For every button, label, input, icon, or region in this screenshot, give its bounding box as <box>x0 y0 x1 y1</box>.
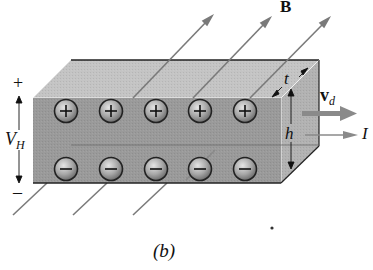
drift-velocity-symbol: v <box>320 85 329 105</box>
minus-terminal-label: – <box>13 182 22 203</box>
current-label: I <box>362 124 368 144</box>
hall-voltage-symbol: V <box>5 129 16 149</box>
figure-caption: (b) <box>153 240 175 262</box>
hall-voltage-label: VH <box>5 129 25 153</box>
thickness-label: t <box>284 69 289 89</box>
plus-terminal-label: + <box>13 73 23 94</box>
drift-velocity-label: vd <box>320 85 335 109</box>
hall-voltage-subscript: H <box>16 138 25 152</box>
drift-velocity-subscript: d <box>329 94 335 108</box>
stray-dot <box>270 226 273 229</box>
hall-effect-figure: B t h vd I + VH – (b) <box>0 0 373 270</box>
slab-diagram <box>0 0 373 270</box>
height-label: h <box>285 124 294 144</box>
field-lines-back <box>13 183 167 215</box>
field-label: B <box>280 0 291 17</box>
